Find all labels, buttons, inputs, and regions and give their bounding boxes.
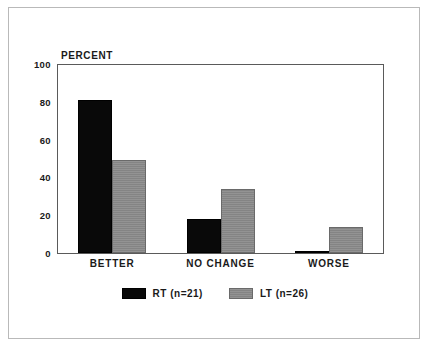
y-tick-label: 20: [40, 210, 51, 221]
legend-swatch-rt: [122, 288, 146, 299]
y-tick-label: 0: [45, 248, 51, 259]
x-axis-label-better: BETTER: [90, 258, 135, 269]
y-tick-label: 100: [34, 59, 51, 70]
x-axis-label-worse: WORSE: [308, 258, 350, 269]
chart-legend: RT (n=21)LT (n=26): [0, 288, 430, 299]
legend-label-rt: RT (n=21): [153, 288, 203, 299]
y-tick-label: 40: [40, 172, 51, 183]
plot-area-frame: [57, 64, 384, 254]
y-axis-title: PERCENT: [61, 50, 113, 61]
y-tick-label: 60: [40, 134, 51, 145]
y-axis: 100806040200: [0, 64, 57, 254]
x-axis-labels: BETTERNO CHANGEWORSE: [57, 258, 384, 274]
figure-container: PERCENT 100806040200 BETTERNO CHANGEWORS…: [0, 0, 430, 348]
y-tick-label: 80: [40, 96, 51, 107]
x-axis-label-no-change: NO CHANGE: [186, 258, 254, 269]
legend-swatch-lt: [229, 288, 253, 299]
legend-item-rt: RT (n=21): [122, 288, 203, 299]
legend-item-lt: LT (n=26): [229, 288, 308, 299]
legend-label-lt: LT (n=26): [260, 288, 308, 299]
